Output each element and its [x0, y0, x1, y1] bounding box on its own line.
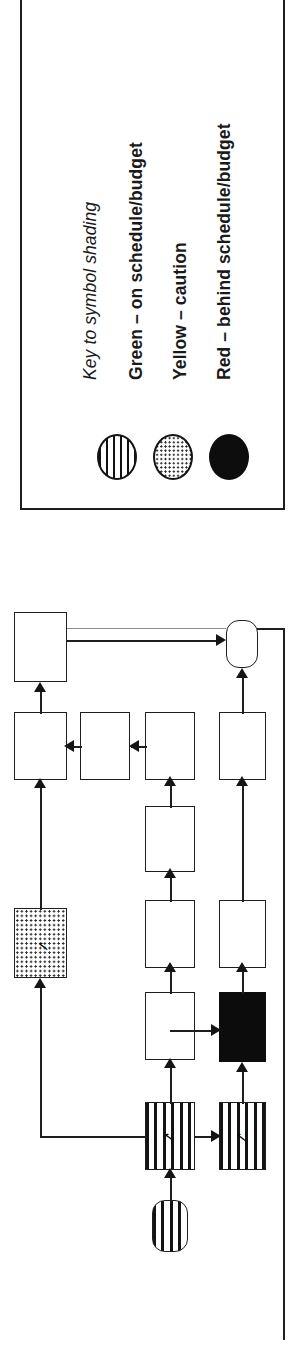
- flowchart: ✓ ✓ ✓: [0, 540, 301, 1345]
- legend-swatch-yellow-icon: [153, 434, 193, 480]
- flow-node-b1[interactable]: [219, 900, 266, 968]
- flow-node-green-a2[interactable]: ✓: [219, 1102, 266, 1170]
- flow-edge-yellow-to-b2: [40, 782, 42, 910]
- flow-edge-return-spine: [283, 628, 285, 1340]
- flow-arrowhead: [164, 868, 176, 878]
- flow-node-b2[interactable]: [14, 712, 67, 780]
- flow-edge-a1-feedback-horizontal: [40, 1136, 147, 1138]
- flow-arrowhead: [34, 978, 46, 988]
- flow-arrowhead: [236, 962, 248, 972]
- flow-arrowhead: [64, 740, 74, 752]
- flow-arrowhead: [211, 1024, 221, 1036]
- status-marker-icon: ✓: [234, 1131, 249, 1144]
- flow-node-b2r[interactable]: [219, 712, 266, 780]
- flow-node-green-a1[interactable]: ✓: [145, 1102, 195, 1170]
- flow-arrowhead: [164, 1168, 176, 1178]
- flow-edge-a1-to-c0: [170, 1062, 172, 1104]
- flow-node-red-behind-schedule[interactable]: [219, 992, 266, 1062]
- flow-arrowhead: [236, 668, 248, 678]
- flow-arrowhead: [34, 682, 46, 692]
- legend-title: Key to symbol shading: [80, 202, 101, 380]
- flow-edge-a1-feedback-vertical: [40, 984, 42, 1137]
- flow-edge-guide: [67, 628, 226, 629]
- legend-swatch-green-icon: [97, 434, 137, 480]
- flow-edge-return-top: [257, 628, 284, 630]
- legend-entry-label-red: Red – behind schedule/budget: [214, 123, 235, 380]
- status-marker-icon: ✓: [36, 940, 51, 953]
- flow-node-c0[interactable]: [145, 992, 195, 1060]
- flow-arrowhead: [216, 634, 226, 646]
- flow-node-c2[interactable]: [145, 806, 195, 872]
- flow-node-top[interactable]: [14, 612, 67, 682]
- flow-arrowhead: [164, 962, 176, 972]
- legend-entry-label-green: Green – on schedule/budget: [126, 142, 147, 380]
- flow-arrowhead: [236, 776, 248, 786]
- flow-node-start-terminal[interactable]: [152, 1200, 188, 1252]
- flow-arrowhead: [164, 776, 176, 786]
- flow-edge-a1-branch-to-red: [170, 1030, 216, 1032]
- flow-node-b1x[interactable]: [80, 712, 130, 780]
- flow-node-yellow-caution[interactable]: ✓: [14, 908, 67, 978]
- flow-edge-b2r-to-end: [242, 672, 244, 714]
- flow-node-end-terminal[interactable]: [226, 620, 258, 668]
- flow-arrowhead: [236, 1062, 248, 1072]
- status-marker-icon: ✓: [162, 1131, 177, 1144]
- legend-entry-label-yellow: Yellow – caution: [170, 242, 191, 380]
- flow-node-c1[interactable]: [145, 900, 195, 968]
- flow-arrowhead: [211, 1130, 221, 1142]
- flow-arrowhead: [34, 778, 46, 788]
- flow-arrowhead: [129, 740, 139, 752]
- flow-edge-b1-to-b2r: [242, 780, 244, 902]
- flow-node-c3[interactable]: [145, 712, 195, 780]
- flow-edge-top-to-end: [67, 640, 222, 642]
- flow-arrowhead: [164, 1058, 176, 1068]
- legend-panel: Key to symbol shading Green – on schedul…: [20, 0, 285, 510]
- legend-swatch-red-icon: [209, 434, 249, 480]
